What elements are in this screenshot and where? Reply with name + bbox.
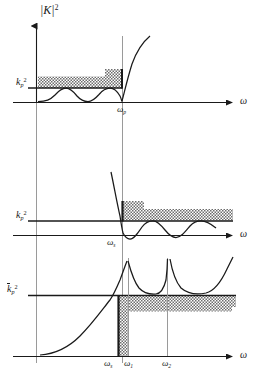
panel-bottom-x-axis-label: ω — [240, 350, 247, 360]
panel-middle-ripple-curve — [123, 221, 216, 239]
panel-bottom-x-tick-omega-2: ω2 — [162, 359, 171, 369]
y-axis-label-exponent: 2 — [55, 3, 59, 12]
panel-bottom-y-tick-label: kp2 — [7, 284, 18, 295]
panel-top-x-axis-label: ω — [240, 96, 247, 106]
panel-bottom-y-tick-overbar-group: k — [7, 284, 11, 294]
panel-bottom-u-branch-1 — [128, 259, 168, 294]
panel-top-ripple-curve — [38, 88, 122, 101]
figure-container: |K|2 kp2 ωp ω kp2 ωs ω kp2 ωs ω1 ω2 ω — [0, 0, 261, 376]
panel-bottom-x-tick-omega-s: ωs — [104, 359, 113, 369]
panel-bottom-y-tick-base: k — [7, 283, 11, 294]
panel-bottom-x-tick-1-sub: 1 — [130, 363, 133, 369]
panel-top-y-tick-sup: 2 — [24, 76, 27, 83]
panel-middle-x-axis-label: ω — [240, 229, 247, 239]
panel-bottom-y-tick-sup: 2 — [15, 283, 18, 290]
panel-top-x-tick-omega-p: ωp — [117, 105, 126, 115]
panel-bottom-hatch-region — [118, 296, 236, 312]
panel-middle-y-tick-sup: 2 — [24, 209, 27, 216]
panel-bottom-x-tick-s-sub: s — [110, 363, 112, 369]
panel-bottom-x-tick-2-sub: 2 — [168, 363, 171, 369]
panel-top-hatch-region — [38, 69, 122, 88]
panel-top-x-tick-sub: p — [123, 109, 126, 115]
panel-top-rising-curve — [122, 36, 150, 101]
panel-middle-y-tick-label: kp2 — [16, 210, 27, 221]
panel-bottom-u-branch-2 — [170, 257, 233, 294]
three-panel-dispersion-figure — [0, 0, 261, 376]
y-axis-label: |K|2 — [40, 4, 58, 16]
panel-top-y-tick-label: kp2 — [16, 77, 27, 88]
panel-bottom — [13, 257, 236, 357]
panel-bottom-x-tick-omega-1: ω1 — [124, 359, 133, 369]
overbar-rule — [7, 283, 10, 284]
panel-middle-descending-curve — [111, 172, 123, 233]
panel-middle-x-tick-omega-s: ωs — [107, 238, 116, 248]
panel-middle-hatch-region — [122, 201, 233, 221]
panel-middle-x-tick-sub: s — [113, 242, 115, 248]
panel-bottom-rising-curve — [40, 261, 127, 355]
